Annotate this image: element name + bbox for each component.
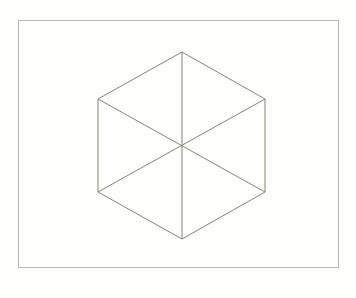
diagram-canvas bbox=[0, 0, 356, 298]
